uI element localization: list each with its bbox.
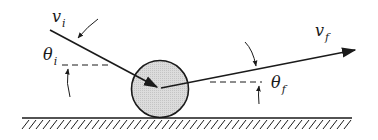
v-final-label: vf bbox=[315, 21, 331, 44]
v-initial-label: vi bbox=[52, 7, 66, 30]
collision-diagram: vi θi vf θf bbox=[0, 0, 378, 140]
theta-f-angle-indicator bbox=[245, 42, 259, 104]
ground-surface bbox=[22, 118, 352, 129]
incoming-velocity-vector bbox=[50, 30, 157, 87]
theta-final-label: θf bbox=[271, 73, 288, 96]
ball bbox=[132, 61, 189, 118]
outgoing-velocity-vector bbox=[161, 50, 355, 88]
theta-initial-label: θi bbox=[43, 45, 57, 68]
ground-hatching bbox=[22, 120, 351, 129]
theta-i-angle-indicator bbox=[67, 19, 98, 97]
